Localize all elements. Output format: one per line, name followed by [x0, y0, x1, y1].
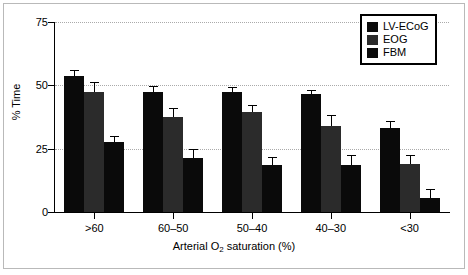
- error-bar-stem: [114, 137, 115, 142]
- bar-eog: [321, 126, 341, 212]
- y-tick-label: 25: [4, 144, 48, 155]
- bar-lv-ecog: [222, 92, 242, 212]
- bar-fbm: [104, 142, 124, 212]
- x-axis-title-pre: Arterial O: [173, 240, 219, 252]
- bar-eog: [84, 92, 104, 212]
- error-bar-stem: [351, 156, 352, 165]
- error-bar-cap: [268, 157, 277, 158]
- error-bar-cap: [406, 155, 415, 156]
- bar-group: [222, 22, 282, 212]
- error-bar-stem: [311, 91, 312, 94]
- error-bar-stem: [390, 122, 391, 128]
- x-axis-title-post: saturation (%): [224, 240, 296, 252]
- bar-lv-ecog: [64, 76, 84, 212]
- error-bar-stem: [331, 116, 332, 126]
- error-bar-cap: [248, 105, 257, 106]
- error-bar-cap: [426, 189, 435, 190]
- legend-swatch-icon: [367, 35, 378, 45]
- legend-item: EOG: [367, 33, 429, 46]
- error-bar-cap: [149, 86, 158, 87]
- x-tick-label: 50–40: [237, 222, 268, 234]
- bar-fbm: [420, 198, 440, 212]
- x-tick-label: <30: [400, 222, 419, 234]
- figure-panel: % Time 0255075 >6060–5050–4040–30<30 Art…: [0, 0, 468, 275]
- y-tick-label: 0: [4, 207, 48, 218]
- x-tick-label: >60: [85, 222, 104, 234]
- legend: LV-ECoGEOGFBM: [360, 14, 437, 65]
- y-axis-title: % Time: [10, 67, 22, 137]
- error-bar-stem: [193, 150, 194, 158]
- legend-item: LV-ECoG: [367, 20, 429, 33]
- error-bar-cap: [189, 149, 198, 150]
- x-tick-label: 40–30: [316, 222, 347, 234]
- legend-label: FBM: [383, 47, 406, 58]
- error-bar-cap: [90, 82, 99, 83]
- bar-eog: [163, 117, 183, 212]
- error-bar-cap: [307, 90, 316, 91]
- legend-swatch-icon: [367, 48, 378, 58]
- bar-fbm: [183, 158, 203, 212]
- x-tick-mark: [173, 213, 174, 219]
- bar-fbm: [341, 165, 361, 212]
- x-tick-label: 60–50: [158, 222, 189, 234]
- bar-group: [64, 22, 124, 212]
- error-bar-stem: [74, 71, 75, 76]
- error-bar-stem: [410, 156, 411, 164]
- error-bar-cap: [110, 136, 119, 137]
- legend-label: EOG: [383, 34, 407, 45]
- error-bar-cap: [347, 155, 356, 156]
- bar-group: [301, 22, 361, 212]
- x-tick-mark: [331, 213, 332, 219]
- bar-lv-ecog: [143, 92, 163, 212]
- legend-swatch-icon: [367, 22, 378, 32]
- error-bar-stem: [173, 109, 174, 117]
- error-bar-stem: [94, 83, 95, 92]
- legend-label: LV-ECoG: [383, 21, 429, 32]
- x-axis-title: Arterial O2 saturation (%): [0, 240, 468, 252]
- error-bar-cap: [327, 115, 336, 116]
- error-bar-stem: [272, 158, 273, 166]
- error-bar-cap: [228, 87, 237, 88]
- error-bar-stem: [232, 88, 233, 92]
- bar-lv-ecog: [301, 94, 321, 212]
- error-bar-stem: [430, 190, 431, 198]
- error-bar-stem: [252, 106, 253, 112]
- y-tick-label: 50: [4, 80, 48, 91]
- error-bar-cap: [169, 108, 178, 109]
- error-bar-stem: [153, 87, 154, 92]
- error-bar-cap: [386, 121, 395, 122]
- bar-group: [143, 22, 203, 212]
- error-bar-cap: [70, 70, 79, 71]
- x-tick-mark: [410, 213, 411, 219]
- bar-lv-ecog: [380, 128, 400, 212]
- y-tick-label: 75: [4, 17, 48, 28]
- legend-item: FBM: [367, 46, 429, 59]
- x-tick-mark: [252, 213, 253, 219]
- bar-eog: [400, 164, 420, 212]
- x-axis-title-subscript: 2: [219, 245, 223, 254]
- bar-fbm: [262, 165, 282, 212]
- x-tick-mark: [94, 213, 95, 219]
- bar-eog: [242, 112, 262, 212]
